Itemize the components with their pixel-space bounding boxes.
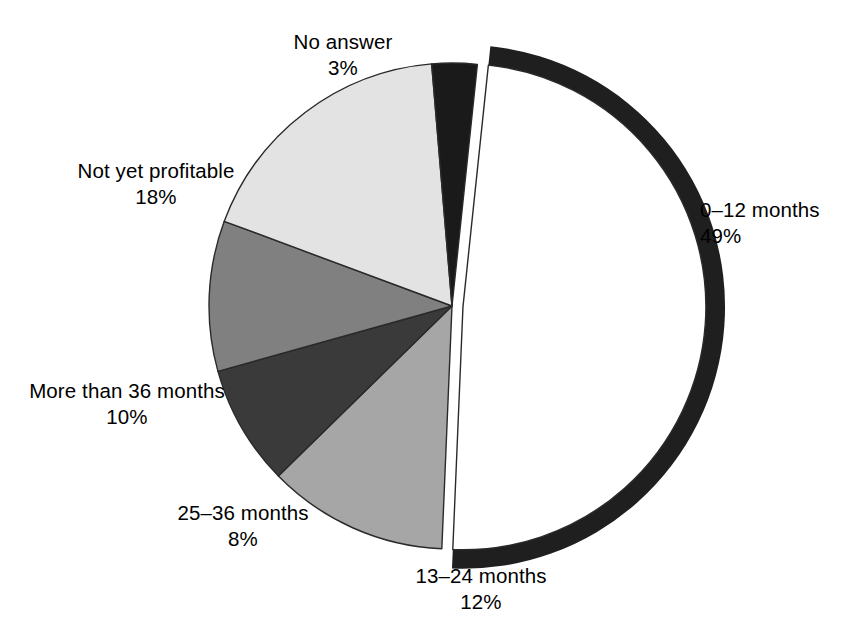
pie-label-no-answer: No answer 3% <box>243 29 443 81</box>
pie-label-more-than-36-months-value: 10% <box>12 404 242 430</box>
pie-label-not-yet-profitable-name: Not yet profitable <box>56 158 256 184</box>
pie-label-25-36-months-value: 8% <box>143 526 343 552</box>
pie-chart-canvas <box>0 0 855 628</box>
pie-slice <box>453 65 706 550</box>
pie-label-25-36-months: 25–36 months 8% <box>143 500 343 552</box>
pie-label-no-answer-value: 3% <box>243 55 443 81</box>
pie-label-25-36-months-name: 25–36 months <box>143 500 343 526</box>
pie-label-13-24-months-value: 12% <box>381 589 581 615</box>
pie-label-not-yet-profitable-value: 18% <box>56 184 256 210</box>
pie-chart: 0–12 months 49% 13–24 months 12% 25–36 m… <box>0 0 855 628</box>
pie-label-0-12-months: 0–12 months 49% <box>700 197 820 249</box>
pie-label-not-yet-profitable: Not yet profitable 18% <box>56 158 256 210</box>
pie-label-0-12-months-name: 0–12 months <box>700 197 820 223</box>
pie-label-0-12-months-value: 49% <box>700 223 820 249</box>
pie-slices <box>209 63 706 550</box>
pie-label-no-answer-name: No answer <box>243 29 443 55</box>
pie-label-13-24-months: 13–24 months 12% <box>381 563 581 615</box>
pie-label-13-24-months-name: 13–24 months <box>381 563 581 589</box>
pie-label-more-than-36-months: More than 36 months 10% <box>12 378 242 430</box>
pie-label-more-than-36-months-name: More than 36 months <box>12 378 242 404</box>
